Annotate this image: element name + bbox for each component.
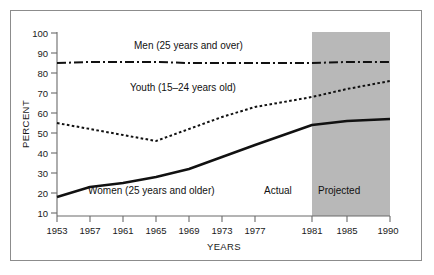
figure-root: 100 90 80 70 60 50 40 30 20 10 1953 [0,0,434,275]
x-axis-title: YEARS [207,241,241,252]
y-axis-title: PERCENT [20,100,31,148]
y-tick-label: 60 [37,108,48,119]
y-tick-label: 70 [37,88,48,99]
x-tick-label: 1977 [244,225,265,236]
y-tick-label: 50 [37,128,48,139]
x-tick-label: 1981 [301,225,322,236]
line-chart: 100 90 80 70 60 50 40 30 20 10 1953 [0,0,434,275]
y-axis-tick-labels: 100 90 80 70 60 50 40 30 20 10 [32,28,48,219]
x-tick-label: 1973 [211,225,232,236]
x-tick-label: 1990 [377,225,398,236]
x-axis-ticks [57,216,390,222]
y-tick-label: 10 [37,208,48,219]
x-tick-label: 1985 [336,225,357,236]
x-tick-label: 1969 [178,225,199,236]
y-tick-label: 100 [32,28,48,39]
projected-region-label: Projected [318,185,360,196]
series-label-men: Men (25 years and over) [134,40,243,51]
x-tick-label: 1957 [79,225,100,236]
y-axis-ticks [51,33,57,213]
x-tick-label: 1965 [145,225,166,236]
series-label-women: Women (25 years and older) [88,185,215,196]
y-tick-label: 80 [37,68,48,79]
actual-region-label: Actual [264,185,292,196]
y-tick-label: 90 [37,48,48,59]
y-tick-label: 30 [37,168,48,179]
y-tick-label: 40 [37,148,48,159]
series-label-youth: Youth (15–24 years old) [130,82,236,93]
x-axis-tick-labels: 1953 1957 1961 1965 1969 1973 1977 1981 … [46,225,398,236]
y-tick-label: 20 [37,188,48,199]
x-tick-label: 1953 [46,225,67,236]
x-tick-label: 1961 [112,225,133,236]
